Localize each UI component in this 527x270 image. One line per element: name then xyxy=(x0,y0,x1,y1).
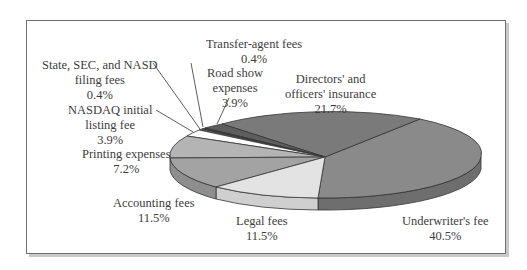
label-text: listing fee xyxy=(68,118,152,133)
label-transfer-agent: Transfer-agent fees 0.4% xyxy=(206,37,302,67)
label-text: Underwriter's fee xyxy=(402,214,489,229)
label-text: Road show xyxy=(207,66,263,81)
label-text: State, SEC, and NASD xyxy=(42,58,158,73)
label-text: Accounting fees xyxy=(113,196,195,211)
label-road-show: Road show expenses 3.9% xyxy=(207,66,263,111)
label-text: filing fees xyxy=(42,73,158,88)
label-text: NASDAQ initial xyxy=(68,103,152,118)
label-directors-insurance: Directors' and officers' insurance 21.7% xyxy=(285,72,376,117)
label-value: 7.2% xyxy=(82,162,171,177)
label-value: 40.5% xyxy=(402,229,489,244)
label-text: expenses xyxy=(207,81,263,96)
label-text: Printing expenses xyxy=(82,147,171,162)
label-value: 0.4% xyxy=(42,88,158,103)
label-text: Transfer-agent fees xyxy=(206,37,302,52)
label-value: 11.5% xyxy=(113,211,195,226)
label-value: 21.7% xyxy=(285,102,376,117)
label-value: 3.9% xyxy=(68,133,152,148)
label-state-sec-nasd: State, SEC, and NASD filing fees 0.4% xyxy=(42,58,158,103)
label-underwriter: Underwriter's fee 40.5% xyxy=(402,214,489,244)
label-text: Directors' and xyxy=(285,72,376,87)
label-legal: Legal fees 11.5% xyxy=(236,214,288,244)
label-printing: Printing expenses 7.2% xyxy=(82,147,171,177)
label-value: 0.4% xyxy=(206,52,302,67)
label-nasdaq-listing: NASDAQ initial listing fee 3.9% xyxy=(68,103,152,148)
label-text: officers' insurance xyxy=(285,87,376,102)
label-value: 3.9% xyxy=(207,96,263,111)
label-accounting: Accounting fees 11.5% xyxy=(113,196,195,226)
label-value: 11.5% xyxy=(236,229,288,244)
label-text: Legal fees xyxy=(236,214,288,229)
